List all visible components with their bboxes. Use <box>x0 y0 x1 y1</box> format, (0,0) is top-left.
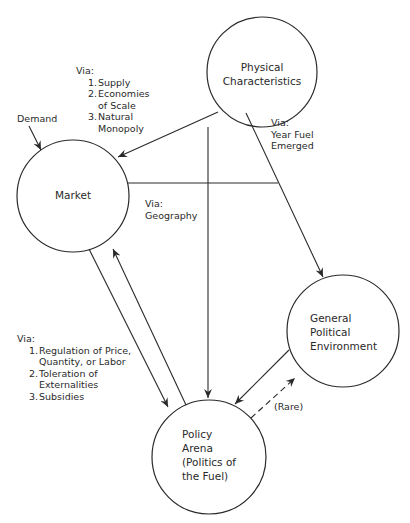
item-text: Supply <box>98 77 130 88</box>
label-line: General <box>310 311 377 325</box>
annotation-item: 2.Economies <box>84 88 150 100</box>
item-text: Quantity, or Labor <box>39 356 126 367</box>
annotation-line: Geography <box>145 210 197 222</box>
general-political-environment-label: General Political Environment <box>310 311 377 353</box>
item-text: Externalities <box>39 379 98 390</box>
annotation-item: 3.Natural <box>84 111 150 123</box>
physical-characteristics-label: Physical Characteristics <box>207 60 317 88</box>
item-text: Toleration of <box>39 368 98 379</box>
market-label: Market <box>33 188 113 202</box>
item-text: Natural <box>98 111 133 122</box>
item-number: 2. <box>88 88 98 100</box>
label-line: Policy <box>182 427 236 441</box>
item-text: Subsidies <box>39 391 84 402</box>
annotation-market-to-policy: Via: 1.Regulation of Price, Quantity, or… <box>17 333 131 402</box>
item-text: Economies <box>98 88 150 99</box>
annotation-item: Externalities <box>25 379 131 391</box>
arrow-general-to-policy <box>235 350 289 404</box>
annotation-rare: (Rare) <box>274 401 303 413</box>
label-line: Environment <box>310 339 377 353</box>
annotation-physical-to-market: Via: 1.Supply 2.Economies of Scale 3.Nat… <box>76 65 150 134</box>
annotation-heading: Via: <box>271 117 314 129</box>
annotation-item: Quantity, or Labor <box>25 356 131 368</box>
annotation-heading: Via: <box>76 65 150 77</box>
item-number: 3. <box>29 391 39 403</box>
label-line: Physical <box>207 60 317 74</box>
label-line: Market <box>33 188 113 202</box>
annotation-heading: Via: <box>17 333 131 345</box>
annotation-item: 1.Supply <box>84 77 150 89</box>
item-text: Regulation of Price, <box>39 345 131 356</box>
item-text: of Scale <box>98 100 136 111</box>
label-line: Arena <box>182 441 236 455</box>
annotation-item: 2.Toleration of <box>25 368 131 380</box>
annotation-item: of Scale <box>84 100 150 112</box>
label-line: (Politics of <box>182 455 236 469</box>
annotation-demand: Demand <box>17 113 57 125</box>
annotation-item: Monopoly <box>84 123 150 135</box>
label-line: Political <box>310 325 377 339</box>
annotation-line: Emerged <box>271 140 314 152</box>
annotation-item: 3.Subsidies <box>25 391 131 403</box>
item-number: 2. <box>29 368 39 380</box>
item-text: Monopoly <box>98 123 144 134</box>
item-number: 1. <box>29 345 39 357</box>
arrow-demand-to-market <box>29 126 41 150</box>
item-number: 1. <box>88 77 98 89</box>
annotation-year-fuel-emerged: Via: Year Fuel Emerged <box>271 117 314 152</box>
item-number: 3. <box>88 111 98 123</box>
annotation-line: Year Fuel <box>271 129 314 141</box>
annotation-item: 1.Regulation of Price, <box>25 345 131 357</box>
annotation-geography: Via: Geography <box>145 198 197 221</box>
label-line: the Fuel) <box>182 469 236 483</box>
annotation-heading: Via: <box>145 198 197 210</box>
label-line: Characteristics <box>207 74 317 88</box>
policy-arena-label: Policy Arena (Politics of the Fuel) <box>182 427 236 483</box>
